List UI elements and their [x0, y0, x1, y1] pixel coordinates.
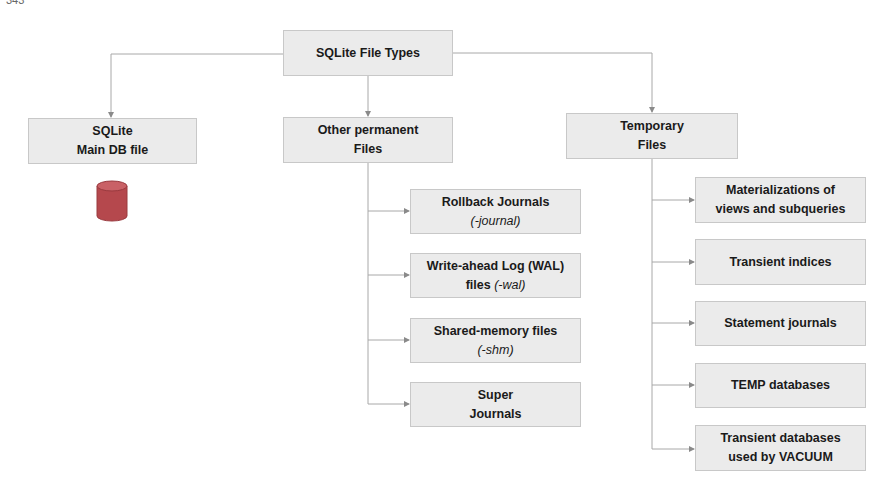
materializations-label-2: views and subqueries [716, 200, 846, 219]
statement-journals-label: Statement journals [724, 314, 837, 333]
temporary-label-2: Files [638, 136, 667, 155]
temporary-files-node: Temporary Files [566, 113, 738, 159]
materializations-node: Materializations of views and subqueries [695, 177, 866, 223]
rollback-label: Rollback Journals [442, 193, 550, 212]
temp-databases-node: TEMP databases [695, 363, 866, 408]
vacuum-label-1: Transient databases [720, 429, 840, 448]
root-node: SQLite File Types [283, 30, 453, 76]
main-db-label-2: Main DB file [77, 141, 149, 160]
rollback-journals-node: Rollback Journals (-journal) [410, 189, 581, 234]
wal-line2-text: files [466, 278, 495, 292]
transient-indices-label: Transient indices [729, 253, 831, 272]
shm-files-node: Shared-memory files (-shm) [410, 318, 581, 363]
database-cylinder-icon [95, 179, 129, 223]
wal-label: Write-ahead Log (WAL) [427, 257, 564, 276]
wal-line2: files (-wal) [466, 276, 526, 295]
permanent-files-node: Other permanent Files [283, 117, 453, 163]
permanent-label-1: Other permanent [318, 121, 419, 140]
main-db-label-1: SQLite [92, 122, 132, 141]
shm-suffix: (-shm) [477, 341, 513, 360]
super-label-1: Super [478, 386, 513, 405]
rollback-suffix: (-journal) [470, 212, 520, 231]
root-label: SQLite File Types [316, 44, 420, 63]
permanent-label-2: Files [354, 140, 383, 159]
shm-label: Shared-memory files [434, 322, 558, 341]
super-label-2: Journals [469, 405, 521, 424]
super-journals-node: Super Journals [410, 382, 581, 427]
transient-indices-node: Transient indices [695, 239, 866, 285]
statement-journals-node: Statement journals [695, 301, 866, 346]
temp-databases-label: TEMP databases [731, 376, 830, 395]
vacuum-databases-node: Transient databases used by VACUUM [695, 425, 866, 471]
materializations-label-1: Materializations of [726, 181, 835, 200]
wal-files-node: Write-ahead Log (WAL) files (-wal) [410, 253, 581, 298]
vacuum-label-2: used by VACUUM [728, 448, 833, 467]
wal-suffix: (-wal) [494, 278, 525, 292]
main-db-node: SQLite Main DB file [28, 118, 197, 164]
temporary-label-1: Temporary [620, 117, 684, 136]
